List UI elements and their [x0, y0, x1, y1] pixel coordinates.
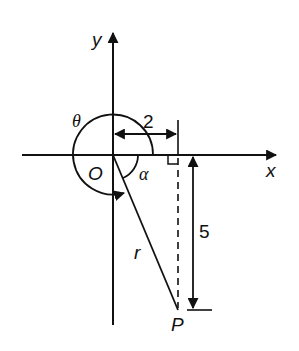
polar-diagram: x y θ α O r 2 5 P — [0, 0, 299, 351]
alpha-label: α — [139, 164, 149, 184]
horizontal-distance-label: 2 — [143, 111, 154, 132]
vertical-distance-label: 5 — [199, 221, 210, 242]
x-axis-label: x — [265, 160, 277, 181]
y-axis-label: y — [90, 29, 103, 50]
alpha-arc — [123, 155, 138, 178]
point-P-label: P — [171, 314, 184, 335]
radius-label: r — [134, 242, 141, 263]
theta-label: θ — [72, 111, 81, 131]
origin-label: O — [88, 163, 103, 184]
right-angle-marker — [168, 155, 178, 164]
